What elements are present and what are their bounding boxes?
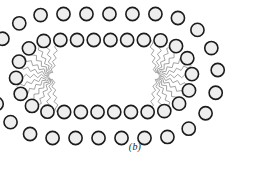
lipid-head-group (209, 86, 222, 99)
lipid-head-group (182, 84, 195, 97)
lipid-head-group (25, 99, 38, 112)
lipid-head-group (126, 7, 139, 20)
lipid-head-group (104, 33, 117, 46)
lipid-head-group (58, 105, 71, 118)
lipid-head-group (154, 34, 167, 47)
bottom-edge-text (0, 176, 270, 184)
lipid-head-group (185, 68, 198, 81)
figure-panel: (b) (0, 0, 270, 184)
lipid-head-group (4, 116, 17, 129)
lipid-head-group (87, 33, 100, 46)
lipid-head-group (211, 63, 224, 76)
lipid-head-group (9, 71, 22, 84)
lipid-head-group (41, 105, 54, 118)
lipid-head-group (199, 107, 212, 120)
lipid-head-group (74, 105, 87, 118)
lipid-head-group (14, 87, 27, 100)
lipid-head-group (181, 52, 194, 65)
lipid-head-group (23, 127, 36, 140)
lipid-head-group (124, 105, 137, 118)
lipid-head-group (171, 11, 184, 24)
lipid-head-group (34, 8, 47, 21)
lipid-head-group (57, 7, 70, 20)
lipid-head-group (158, 104, 171, 117)
lipid-head-group (137, 33, 150, 46)
lipid-head-group (22, 42, 35, 55)
lipid-head-group (37, 34, 50, 47)
lipid-head-group (191, 23, 204, 36)
lipid-tail-layer (15, 39, 193, 112)
lipid-head-group (80, 7, 93, 20)
lipid-head-group (182, 122, 195, 135)
lipid-head-group (12, 55, 25, 68)
lipid-head-group (205, 41, 218, 54)
lipid-head-group (13, 17, 26, 30)
lipid-head-group (149, 7, 162, 20)
lipid-head-group (54, 33, 67, 46)
lipid-head-group (103, 7, 116, 20)
figure-caption: (b) (0, 141, 270, 153)
lipid-head-group (0, 32, 9, 45)
lipid-head-group (121, 33, 134, 46)
lipid-head-group (91, 105, 104, 118)
lipid-head-group (141, 105, 154, 118)
lipid-head-group (70, 33, 83, 46)
lipid-head-layer (0, 7, 224, 144)
lipid-head-group (172, 97, 185, 110)
vesicle-diagram (0, 0, 270, 184)
lipid-head-group (0, 97, 3, 110)
lipid-head-group (108, 105, 121, 118)
lipid-head-group (169, 39, 182, 52)
